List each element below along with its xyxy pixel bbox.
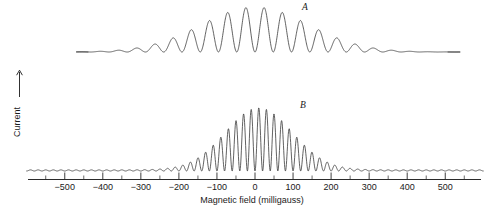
- x-axis-tick-label: 400: [400, 182, 415, 192]
- x-axis-tick-label: −300: [131, 182, 151, 192]
- interference-figure: A B −500−400−300−200−1000100200300400500…: [0, 0, 491, 214]
- curve-a-label: A: [301, 2, 308, 12]
- plot-canvas: A B −500−400−300−200−1000100200300400500…: [0, 0, 491, 214]
- x-axis-tick-labels: −500−400−300−200−1000100200300400500: [55, 182, 453, 192]
- x-axis-caption: Magnetic field (milligauss): [200, 195, 304, 205]
- curve-b-label: B: [300, 100, 306, 110]
- x-axis-tick-label: −100: [207, 182, 227, 192]
- curve-a-path: [76, 8, 460, 52]
- y-axis-caption: Current: [12, 106, 22, 137]
- curve-b-group: [27, 108, 484, 171]
- x-axis-tick-label: 0: [252, 182, 257, 192]
- x-axis-tick-label: 200: [324, 182, 339, 192]
- x-axis-tick-label: −500: [55, 182, 75, 192]
- x-axis-tick-label: 500: [438, 182, 453, 192]
- x-axis-tick-label: 100: [286, 182, 301, 192]
- x-axis-ticks: [46, 173, 465, 180]
- x-axis-tick-label: −400: [93, 182, 113, 192]
- curve-a-group: [76, 8, 460, 52]
- curve-b-path: [27, 108, 484, 171]
- x-axis-tick-label: 300: [362, 182, 377, 192]
- x-axis-tick-label: −200: [169, 182, 189, 192]
- y-axis-label-group: Current: [12, 70, 23, 137]
- x-axis: −500−400−300−200−1000100200300400500 Mag…: [28, 173, 481, 206]
